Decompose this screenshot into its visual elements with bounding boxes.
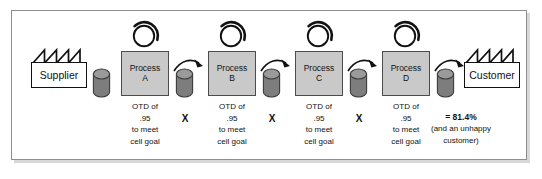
result-block: = 81.4% (and an unhappy customer) bbox=[415, 111, 507, 147]
process-box-c: Process C bbox=[295, 51, 343, 96]
caption-line: to meet bbox=[283, 124, 355, 136]
supplier-node: Supplier bbox=[31, 44, 87, 88]
customer-box: Customer bbox=[464, 62, 520, 88]
caption-line: to meet bbox=[196, 124, 268, 136]
result-note: (and an unhappy customer) bbox=[415, 123, 507, 146]
caption-line: cell goal bbox=[283, 136, 355, 148]
process-letter: C bbox=[316, 74, 322, 84]
multiply-operator: X bbox=[178, 113, 192, 124]
curved-arrow-icon bbox=[433, 55, 467, 81]
supplier-box: Supplier bbox=[31, 62, 87, 88]
process-box-d: Process D bbox=[382, 51, 430, 96]
curved-arrow-icon bbox=[346, 55, 380, 81]
result-note-line1: (and an unhappy bbox=[415, 123, 507, 135]
caption-line: .95 bbox=[196, 113, 268, 125]
diagram-canvas: Supplier Process A OTD of .95 to meet ce… bbox=[0, 0, 542, 179]
caption-line: OTD of bbox=[196, 101, 268, 113]
rotation-loop-icon bbox=[389, 20, 423, 54]
process-caption-b: OTD of .95 to meet cell goal bbox=[196, 101, 268, 147]
caption-line: cell goal bbox=[109, 136, 181, 148]
result-total: = 81.4% bbox=[415, 111, 507, 123]
rotation-loop-icon bbox=[215, 20, 249, 54]
inventory-cylinder bbox=[92, 68, 111, 102]
caption-line: OTD of bbox=[109, 101, 181, 113]
caption-line: .95 bbox=[109, 113, 181, 125]
curved-arrow-icon bbox=[172, 55, 206, 81]
caption-line: to meet bbox=[109, 124, 181, 136]
rotation-loop-icon bbox=[302, 20, 336, 54]
supplier-label: Supplier bbox=[40, 70, 79, 81]
process-box-b: Process B bbox=[208, 51, 256, 96]
process-letter: A bbox=[142, 74, 148, 84]
customer-node: Customer bbox=[464, 44, 520, 88]
process-box-a: Process A bbox=[121, 51, 169, 96]
caption-line: cell goal bbox=[196, 136, 268, 148]
customer-label: Customer bbox=[469, 70, 515, 81]
caption-line: .95 bbox=[283, 113, 355, 125]
multiply-operator: X bbox=[265, 113, 279, 124]
result-note-line2: customer) bbox=[415, 135, 507, 147]
rotation-loop-icon bbox=[128, 20, 162, 54]
caption-line: OTD of bbox=[283, 101, 355, 113]
process-letter: B bbox=[229, 74, 235, 84]
process-caption-c: OTD of .95 to meet cell goal bbox=[283, 101, 355, 147]
process-caption-a: OTD of .95 to meet cell goal bbox=[109, 101, 181, 147]
process-letter: D bbox=[403, 74, 409, 84]
curved-arrow-icon bbox=[259, 55, 293, 81]
multiply-operator: X bbox=[352, 113, 366, 124]
